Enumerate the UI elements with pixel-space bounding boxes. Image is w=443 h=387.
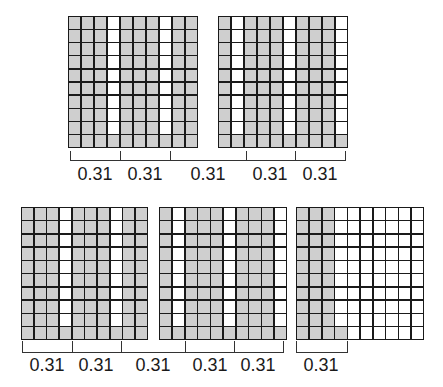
shaded-cell bbox=[136, 208, 147, 220]
shaded-cell bbox=[219, 96, 230, 108]
shaded-cell bbox=[258, 30, 269, 42]
shaded-cell bbox=[219, 109, 230, 121]
shaded-cell bbox=[95, 122, 106, 134]
shaded-cell bbox=[47, 208, 58, 220]
shaded-cell bbox=[98, 274, 109, 286]
shaded-cell bbox=[69, 43, 80, 55]
unshaded-cell bbox=[173, 208, 184, 220]
unshaded-cell bbox=[335, 208, 346, 220]
shaded-cell bbox=[258, 56, 269, 68]
unshaded-cell bbox=[284, 17, 295, 29]
shaded-cell bbox=[22, 261, 33, 273]
shaded-cell bbox=[249, 221, 260, 233]
shaded-cell bbox=[147, 43, 158, 55]
shaded-cell bbox=[136, 301, 147, 313]
shaded-cell bbox=[82, 30, 93, 42]
shaded-cell bbox=[22, 288, 33, 300]
shaded-cell bbox=[134, 135, 145, 147]
unshaded-cell bbox=[275, 208, 286, 220]
unshaded-cell bbox=[348, 208, 359, 220]
shaded-cell bbox=[69, 135, 80, 147]
unshaded-cell bbox=[335, 288, 346, 300]
unshaded-cell bbox=[60, 274, 71, 286]
shaded-cell bbox=[147, 17, 158, 29]
unshaded-cell bbox=[160, 17, 171, 29]
unshaded-cell bbox=[348, 327, 359, 339]
unshaded-cell bbox=[275, 261, 286, 273]
unshaded-cell bbox=[111, 288, 122, 300]
unshaded-cell bbox=[386, 274, 397, 286]
shaded-cell bbox=[85, 274, 96, 286]
shaded-cell bbox=[173, 135, 184, 147]
unshaded-cell bbox=[275, 288, 286, 300]
shaded-cell bbox=[173, 122, 184, 134]
shaded-cell bbox=[297, 221, 308, 233]
shaded-cell bbox=[219, 122, 230, 134]
shaded-cell bbox=[262, 221, 273, 233]
unshaded-cell bbox=[232, 17, 243, 29]
shaded-cell bbox=[47, 327, 58, 339]
shaded-cell bbox=[297, 288, 308, 300]
unshaded-cell bbox=[275, 248, 286, 260]
unshaded-cell bbox=[361, 288, 372, 300]
shaded-cell bbox=[245, 109, 256, 121]
unshaded-cell bbox=[173, 221, 184, 233]
shaded-cell bbox=[121, 30, 132, 42]
shaded-cell bbox=[134, 96, 145, 108]
unshaded-cell bbox=[399, 248, 410, 260]
shaded-cell bbox=[98, 301, 109, 313]
grid-3 bbox=[21, 207, 148, 340]
unshaded-cell bbox=[60, 235, 71, 247]
shaded-cell bbox=[211, 248, 222, 260]
shaded-cell bbox=[73, 314, 84, 326]
shaded-cell bbox=[258, 17, 269, 29]
unshaded-cell bbox=[348, 221, 359, 233]
unshaded-cell bbox=[335, 274, 346, 286]
bracket-line bbox=[70, 160, 345, 161]
shaded-cell bbox=[271, 96, 282, 108]
unshaded-cell bbox=[284, 70, 295, 82]
shaded-cell bbox=[310, 288, 321, 300]
bracket-tick bbox=[345, 151, 346, 161]
unshaded-cell bbox=[284, 43, 295, 55]
shaded-cell bbox=[186, 83, 197, 95]
shaded-cell bbox=[271, 17, 282, 29]
shaded-cell bbox=[249, 288, 260, 300]
shaded-cell bbox=[245, 122, 256, 134]
shaded-cell bbox=[147, 30, 158, 42]
unshaded-cell bbox=[412, 327, 423, 339]
shaded-cell bbox=[198, 274, 209, 286]
unshaded-cell bbox=[232, 70, 243, 82]
shaded-cell bbox=[173, 109, 184, 121]
shaded-cell bbox=[262, 235, 273, 247]
bracket-tick bbox=[185, 341, 186, 353]
shaded-cell bbox=[160, 208, 171, 220]
shaded-cell bbox=[186, 248, 197, 260]
unshaded-cell bbox=[336, 70, 347, 82]
shaded-cell bbox=[219, 30, 230, 42]
shaded-cell bbox=[85, 327, 96, 339]
unshaded-cell bbox=[336, 122, 347, 134]
shaded-cell bbox=[173, 70, 184, 82]
unshaded-cell bbox=[108, 43, 119, 55]
shaded-cell bbox=[47, 274, 58, 286]
shaded-cell bbox=[323, 314, 334, 326]
shaded-cell bbox=[95, 96, 106, 108]
unshaded-cell bbox=[399, 235, 410, 247]
unshaded-cell bbox=[335, 301, 346, 313]
shaded-cell bbox=[134, 43, 145, 55]
unshaded-cell bbox=[399, 261, 410, 273]
shaded-cell bbox=[310, 274, 321, 286]
unshaded-cell bbox=[412, 301, 423, 313]
unshaded-cell bbox=[386, 208, 397, 220]
unshaded-cell bbox=[412, 261, 423, 273]
unshaded-cell bbox=[335, 248, 346, 260]
shaded-cell bbox=[323, 288, 334, 300]
shaded-cell bbox=[310, 83, 321, 95]
shaded-cell bbox=[186, 314, 197, 326]
shaded-cell bbox=[323, 96, 334, 108]
unshaded-cell bbox=[224, 221, 235, 233]
unshaded-cell bbox=[412, 221, 423, 233]
shaded-cell bbox=[134, 17, 145, 29]
unshaded-cell bbox=[160, 30, 171, 42]
